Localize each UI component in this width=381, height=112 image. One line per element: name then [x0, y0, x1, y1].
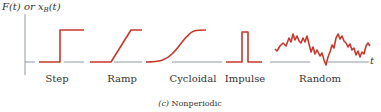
- caption-text: Nonperiodic: [172, 99, 222, 108]
- signal-plot: [0, 0, 381, 112]
- caption-prefix: (c): [158, 99, 169, 108]
- label-random: Random: [299, 73, 341, 84]
- label-step: Step: [45, 73, 68, 84]
- y-axis-label: F(t) or xB(t): [2, 1, 61, 14]
- impulse-signal: [226, 32, 262, 62]
- ramp-signal: [90, 30, 142, 62]
- cycloidal-signal: [146, 30, 206, 62]
- label-ramp: Ramp: [107, 73, 137, 84]
- nonperiodic-excitation-figure: F(t) or xB(t) t Step Ramp Cycloidal Impu…: [0, 0, 381, 112]
- label-cycloidal: Cycloidal: [170, 73, 217, 84]
- random-signal: [275, 34, 370, 65]
- step-signal: [39, 30, 84, 62]
- t-axis-label: t: [370, 55, 374, 66]
- label-impulse: Impulse: [225, 73, 266, 84]
- figure-caption: (c) Nonperiodic: [158, 99, 221, 108]
